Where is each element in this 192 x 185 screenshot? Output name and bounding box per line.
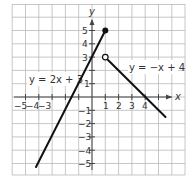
open-endpoint-icon: [103, 54, 109, 60]
equation-label-2x-plus-3: y = 2x + 3: [29, 74, 83, 85]
y-axis-label: y: [88, 6, 96, 17]
y-tick-label: 5: [82, 26, 88, 36]
x-tick-label: 3: [129, 101, 135, 111]
x-tick-label: 1: [103, 101, 109, 111]
x-tick-label: 4: [142, 101, 148, 111]
y-tick-label: 3: [82, 53, 88, 63]
y-tick-label: 4: [82, 39, 88, 49]
piecewise-graph: y x −5 −4 −3 1 2 3 4 5 4 3 1 −1 −2 −3 −4…: [0, 0, 192, 185]
grid: [12, 4, 185, 175]
y-tick-label: −4: [78, 146, 92, 156]
x-tick-label: −3: [38, 101, 51, 111]
x-tick-label: 2: [116, 101, 122, 111]
equation-label-neg-x-plus-4: y = −x + 4: [129, 62, 185, 73]
y-tick-label: −5: [78, 159, 91, 169]
x-axis-label: x: [174, 91, 181, 102]
y-axis-arrow-icon: [90, 19, 95, 25]
y-tick-label: −2: [78, 119, 91, 129]
closed-endpoint-icon: [102, 28, 108, 34]
y-tick-label: −3: [78, 132, 91, 142]
line-y-equals-2x-plus-3: [36, 31, 105, 168]
y-tick-label: −1: [78, 106, 91, 116]
y-tick-label: 1: [84, 79, 90, 89]
x-axis-arrow-icon: [166, 95, 172, 100]
